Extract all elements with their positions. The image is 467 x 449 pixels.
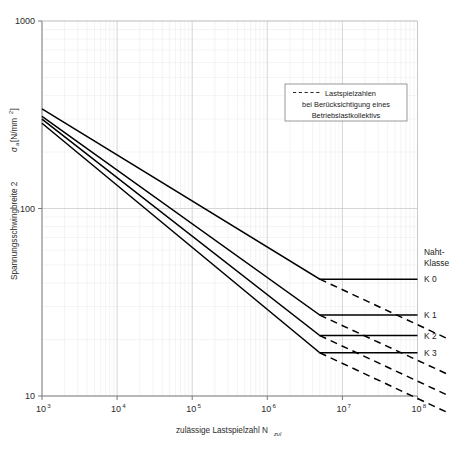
class-label-k2: K 2 — [424, 331, 437, 341]
x-tick-mantissa: 10 — [111, 404, 121, 414]
y-tick-label-0: 10 — [25, 391, 35, 401]
x-tick-exponent: 7 — [348, 402, 352, 409]
class-header-line1: Naht- — [424, 247, 445, 257]
y-axis-title-unit: [N/mm — [10, 118, 19, 142]
x-tick-exponent: 6 — [273, 402, 277, 409]
y-axis-title-text: Spannungsschwingbreite 2 — [10, 181, 19, 280]
x-tick-exponent: 3 — [47, 402, 51, 409]
y-tick-label-2: 1000 — [15, 16, 35, 26]
class-label-k0: K 0 — [424, 274, 437, 284]
legend-line-2: bei Berücksichtigung eines — [302, 100, 390, 109]
class-label-k3: K 3 — [424, 348, 437, 358]
legend-line-1: Lastspielzahlen — [325, 89, 376, 98]
x-tick-mantissa: 10 — [186, 404, 196, 414]
y-tick-label-1: 100 — [20, 204, 35, 214]
x-tick-mantissa: 10 — [261, 404, 271, 414]
x-tick-exponent: 5 — [197, 402, 201, 409]
class-label-k1: K 1 — [424, 310, 437, 320]
legend-box: Lastspielzahlen bei Berücksichtigung ein… — [285, 84, 407, 121]
chart-background — [0, 0, 467, 449]
x-tick-exponent: 8 — [423, 402, 427, 409]
x-axis-title: zulässige Lastspielzahl N zul — [176, 426, 282, 437]
y-axis-title-sigma: σ — [10, 147, 19, 152]
x-axis-title-subscript: zul — [273, 431, 282, 437]
chart-svg: 103104105106107108 101001000 K 0K 1K 2K … — [0, 0, 467, 449]
x-tick-mantissa: 10 — [412, 404, 422, 414]
legend-line-3: Betriebslastkollektivs — [312, 111, 381, 120]
class-header-line2: Klasse — [424, 258, 449, 268]
y-axis-title: Spannungsschwingbreite 2 σ a [N/mm 2 ] — [8, 108, 20, 280]
y-axis-title-unit-end: ] — [10, 108, 19, 110]
x-tick-exponent: 4 — [122, 402, 126, 409]
x-tick-mantissa: 10 — [36, 404, 46, 414]
x-axis-title-text: zulässige Lastspielzahl N — [176, 426, 268, 435]
x-tick-mantissa: 10 — [336, 404, 346, 414]
fatigue-strength-chart: 103104105106107108 101001000 K 0K 1K 2K … — [0, 0, 467, 449]
